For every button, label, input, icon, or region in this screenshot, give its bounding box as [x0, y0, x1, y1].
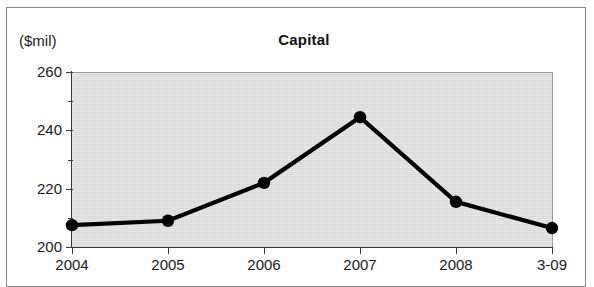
x-tick	[456, 248, 457, 254]
x-tick	[552, 248, 553, 254]
y-tick-major	[66, 189, 73, 190]
chart-frame: ($mil) Capital 200220240260 200420052006…	[6, 7, 586, 287]
y-tick-label: 200	[7, 238, 62, 255]
x-tick-label: 2008	[416, 256, 496, 273]
x-axis-line	[71, 247, 553, 248]
plot-texture	[72, 73, 552, 248]
y-tick-label: 260	[7, 63, 62, 80]
x-tick-label: 2007	[320, 256, 400, 273]
chart-title: Capital	[7, 31, 594, 48]
y-tick-major	[66, 72, 73, 73]
x-tick	[72, 248, 73, 254]
x-tick-label: 2005	[128, 256, 208, 273]
x-tick-label: 2006	[224, 256, 304, 273]
y-tick-minor	[68, 218, 73, 219]
y-tick-major	[66, 130, 73, 131]
y-tick-label: 220	[7, 180, 62, 197]
x-tick-label: 3-09	[512, 256, 592, 273]
plot-area	[72, 72, 553, 248]
y-tick-label: 240	[7, 121, 62, 138]
x-tick	[360, 248, 361, 254]
x-tick	[168, 248, 169, 254]
y-tick-minor	[68, 160, 73, 161]
x-tick-label: 2004	[32, 256, 112, 273]
y-tick-minor	[68, 101, 73, 102]
x-tick	[264, 248, 265, 254]
